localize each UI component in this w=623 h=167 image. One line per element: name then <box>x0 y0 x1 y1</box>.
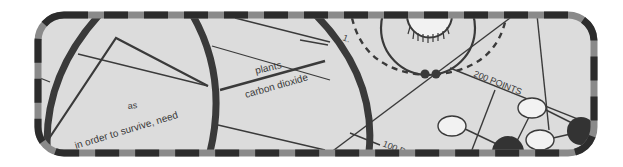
label-as: as <box>127 100 138 111</box>
concept-map-illustration: as in order to survive, need plants carb… <box>0 0 623 167</box>
ellipse-node-1 <box>438 116 466 136</box>
ellipse-node-2 <box>518 98 546 118</box>
ellipse-node-3 <box>526 130 554 150</box>
